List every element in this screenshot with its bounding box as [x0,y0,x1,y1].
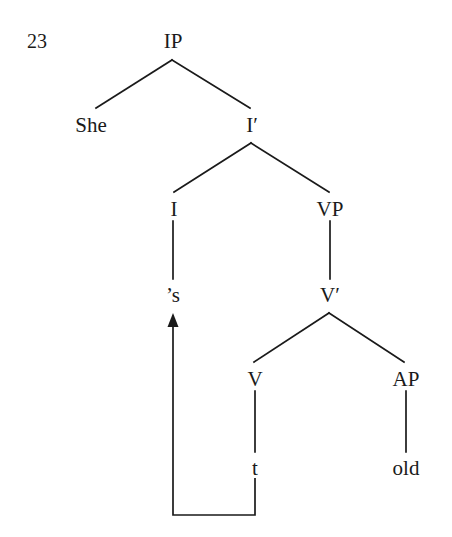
movement-arrow-layer [168,313,256,515]
node-label-ap: AP [393,369,420,390]
branch-ibar-to-vp [251,143,329,192]
movement-arrow-path [173,325,255,515]
node-label-t: t [252,458,258,479]
branch-vbar-to-v [254,313,329,362]
node-label-v: V [247,369,262,390]
node-label-vbar: V′ [320,285,340,306]
node-label-i: I [171,199,178,220]
branch-vbar-to-ap [329,313,404,362]
example-number: 23 [27,31,47,51]
node-label-she: She [75,115,107,136]
branch-ibar-to-i [174,143,251,192]
tree-lines-svg [0,0,452,537]
node-label-old: old [393,458,420,479]
movement-arrow-head [168,313,179,327]
node-label-ip: IP [164,31,183,52]
branch-ip-to-ibar [172,60,250,108]
branch-ip-to-she [96,60,172,108]
node-label-vp: VP [317,199,344,220]
node-label-ibar: I′ [246,115,258,136]
node-label-s: ’s [166,285,180,306]
syntax-tree-figure: 23 IPSheI′IVP’sV′VAPtold [0,0,452,537]
